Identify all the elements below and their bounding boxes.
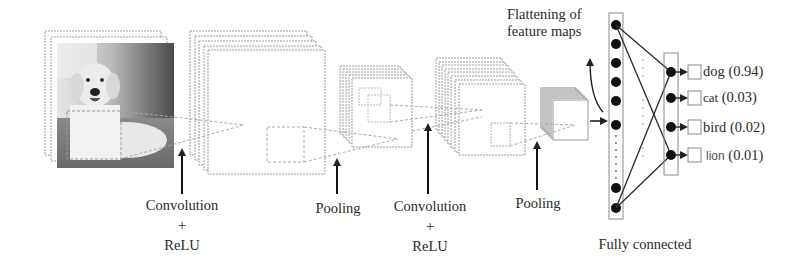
output-class: bird [703, 119, 726, 135]
cnn-diagram [0, 0, 812, 267]
conv1-label-plus: + [178, 218, 186, 233]
output-class: cat [703, 90, 718, 105]
output-column [664, 53, 701, 175]
pool2-label: Pooling [515, 196, 560, 211]
output-score: (0.02) [730, 119, 765, 135]
output-label-lion: lion (0.01) [706, 148, 763, 163]
pool1-feature-maps [340, 66, 412, 147]
output-score: (0.94) [728, 63, 763, 79]
flatten-label-line1: Flattening of [507, 6, 582, 23]
output-label-dog: dog (0.94) [703, 64, 763, 79]
flatten-label: Flattening of feature maps [507, 6, 582, 40]
conv2-label-line2: ReLU [412, 239, 447, 254]
output-label-cat: cat (0.03) [703, 90, 757, 105]
pool2-feature-maps [541, 88, 588, 140]
conv2-label-line1: Convolution [394, 199, 467, 214]
conv1-label-line1: Convolution [146, 198, 219, 213]
conv2-feature-maps [436, 58, 525, 155]
output-class: dog [703, 63, 725, 79]
output-score: (0.01) [728, 147, 763, 163]
input-image-stack [45, 31, 174, 168]
conv2-label-plus: + [426, 219, 434, 234]
output-class: lion [706, 149, 725, 163]
output-score: (0.03) [722, 89, 757, 105]
conv1-label-line2: ReLU [164, 238, 199, 253]
conv1-feature-maps [190, 31, 325, 174]
pool1-label: Pooling [315, 201, 360, 216]
flatten-label-line2: feature maps [507, 23, 582, 40]
flatten-label-arrow [590, 60, 603, 112]
output-label-bird: bird (0.02) [703, 120, 765, 135]
fully-connected-label: Fully connected [598, 237, 691, 252]
